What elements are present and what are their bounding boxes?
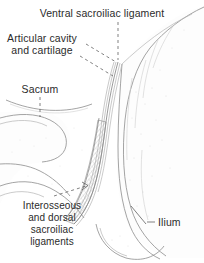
label-interosseous-line2: and dorsal — [28, 212, 76, 223]
label-articular-cavity-line2: and cartilage — [11, 44, 72, 56]
label-articular-cavity-line1: Articular cavity — [7, 32, 78, 44]
label-interosseous-line1: Interosseous — [23, 200, 81, 211]
sacroiliac-joint-diagram: Ventral sacroiliac ligament Articular ca… — [0, 0, 204, 263]
label-sacrum: Sacrum — [22, 83, 59, 95]
label-ilium: Ilium — [158, 216, 181, 228]
label-interosseous-line3: sacroiliac — [31, 224, 74, 235]
label-ventral-sacroiliac-ligament: Ventral sacroiliac ligament — [40, 7, 165, 19]
label-interosseous-line4: ligaments — [30, 236, 74, 247]
